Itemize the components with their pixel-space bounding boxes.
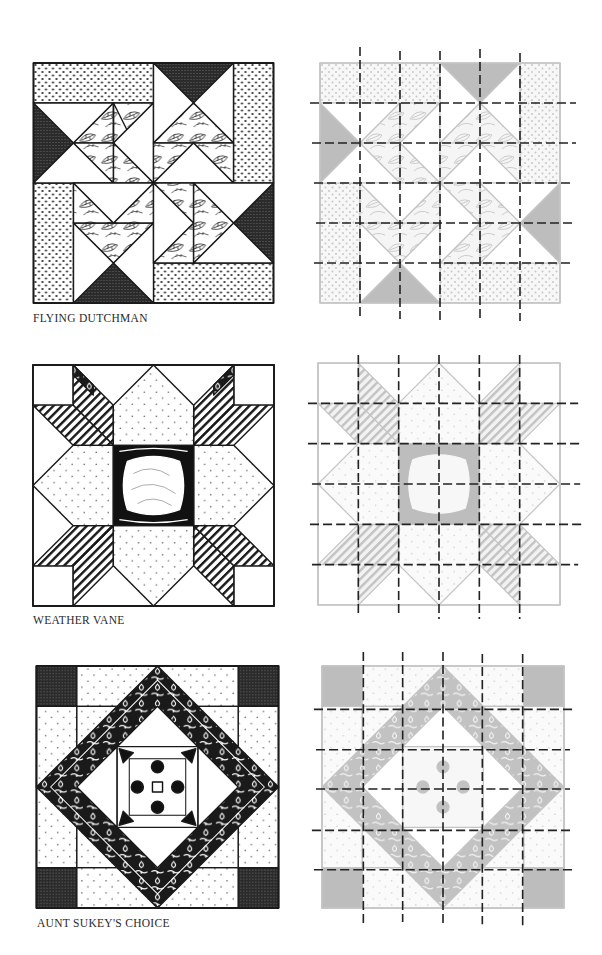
weather-vane-grid-block [318,363,560,605]
weather-vane-cutting-grid [318,363,560,605]
aunt-sukeys-choice-block [36,666,279,908]
aunt-sukeys-choice-cutting-grid [321,666,565,908]
flying-dutchman-grid-block [318,63,562,303]
flying-dutchman-block [32,63,275,303]
weather-vane-illustration [32,365,275,606]
flying-dutchman-caption: FLYING DUTCHMAN [33,312,148,324]
weather-vane-block [32,365,275,606]
aunt-sukeys-choice-illustration [36,666,279,908]
flying-dutchman-illustration [32,63,275,303]
flying-dutchman-cutting-grid [318,63,562,303]
weather-vane-caption: WEATHER VANE [33,614,125,626]
aunt-sukeys-choice-grid-block [321,666,565,908]
aunt-sukeys-choice-caption: AUNT SUKEY'S CHOICE [37,917,170,929]
